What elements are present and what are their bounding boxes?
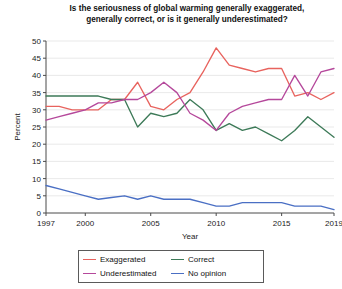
series-line-no-opinion bbox=[46, 185, 334, 209]
chart-legend: Exaggerated Correct Underestimated No op… bbox=[78, 250, 264, 283]
y-tick-label: 35 bbox=[32, 89, 41, 98]
legend-swatch-no-opinion bbox=[171, 273, 184, 274]
legend-swatch-correct bbox=[171, 259, 184, 260]
y-tick-label: 10 bbox=[32, 175, 41, 184]
legend-label-correct: Correct bbox=[188, 255, 214, 264]
x-tick-label: 1997 bbox=[37, 219, 55, 228]
plot-area: 0510152025303540455019972000200520102015… bbox=[0, 0, 342, 289]
x-tick-label: 2019 bbox=[325, 219, 342, 228]
series-line-exaggerated bbox=[46, 48, 334, 110]
y-tick-label: 0 bbox=[37, 209, 42, 218]
y-axis-title: Percent bbox=[13, 112, 22, 140]
legend-item-underestimated[interactable]: Underestimated bbox=[83, 269, 171, 278]
y-tick-label: 40 bbox=[32, 71, 41, 80]
y-tick-label: 20 bbox=[32, 140, 41, 149]
legend-label-no-opinion: No opinion bbox=[188, 269, 226, 278]
legend-label-underestimated: Underestimated bbox=[100, 269, 156, 278]
y-tick-label: 45 bbox=[32, 54, 41, 63]
y-tick-label: 30 bbox=[32, 106, 41, 115]
y-tick-label: 15 bbox=[32, 157, 41, 166]
x-axis-title: Year bbox=[182, 232, 199, 241]
y-tick-label: 50 bbox=[32, 37, 41, 46]
x-tick-label: 2010 bbox=[207, 219, 225, 228]
legend-swatch-exaggerated bbox=[83, 259, 96, 260]
legend-item-correct[interactable]: Correct bbox=[171, 255, 259, 264]
series-line-correct bbox=[46, 96, 334, 141]
x-tick-label: 2000 bbox=[76, 219, 94, 228]
y-tick-label: 25 bbox=[32, 123, 41, 132]
legend-item-exaggerated[interactable]: Exaggerated bbox=[83, 255, 171, 264]
legend-label-exaggerated: Exaggerated bbox=[100, 255, 145, 264]
legend-item-no-opinion[interactable]: No opinion bbox=[171, 269, 259, 278]
x-tick-label: 2015 bbox=[273, 219, 291, 228]
chart-page: Is the seriousness of global warming gen… bbox=[0, 0, 342, 289]
y-tick-label: 5 bbox=[37, 192, 42, 201]
legend-swatch-underestimated bbox=[83, 273, 96, 274]
line-chart-svg: 0510152025303540455019972000200520102015… bbox=[0, 0, 342, 289]
x-tick-label: 2005 bbox=[142, 219, 160, 228]
